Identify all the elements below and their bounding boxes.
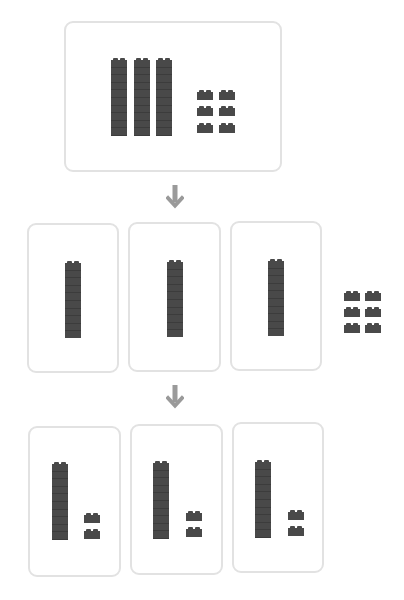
- unit-cube: [197, 125, 213, 133]
- unit-cube: [84, 515, 100, 523]
- tens-rod: [167, 262, 183, 337]
- arrow-down-icon: [166, 185, 184, 211]
- tens-rod: [153, 463, 169, 539]
- unit-cube: [365, 293, 381, 301]
- tens-rod: [65, 263, 81, 338]
- unit-cube: [186, 529, 202, 537]
- tens-rod: [111, 60, 127, 136]
- unit-cube: [288, 512, 304, 520]
- unit-cube: [344, 325, 360, 333]
- tens-rod: [156, 60, 172, 136]
- unit-cube: [84, 531, 100, 539]
- result-card-1: [28, 426, 121, 577]
- unit-cube: [365, 325, 381, 333]
- unit-cube: [365, 309, 381, 317]
- tens-rod: [134, 60, 150, 136]
- result-card-2: [130, 424, 223, 575]
- unit-cube: [344, 293, 360, 301]
- unit-cube: [219, 108, 235, 116]
- result-card-3: [232, 422, 324, 573]
- card-whole: [64, 21, 282, 172]
- unit-cube: [288, 528, 304, 536]
- unit-cube: [186, 513, 202, 521]
- tens-rod: [52, 464, 68, 540]
- unit-cube: [344, 309, 360, 317]
- unit-cube: [197, 108, 213, 116]
- arrow-down-icon: [166, 385, 184, 411]
- tens-rod: [255, 462, 271, 538]
- unit-cube: [197, 92, 213, 100]
- tens-rod: [268, 261, 284, 336]
- unit-cube: [219, 125, 235, 133]
- unit-cube: [219, 92, 235, 100]
